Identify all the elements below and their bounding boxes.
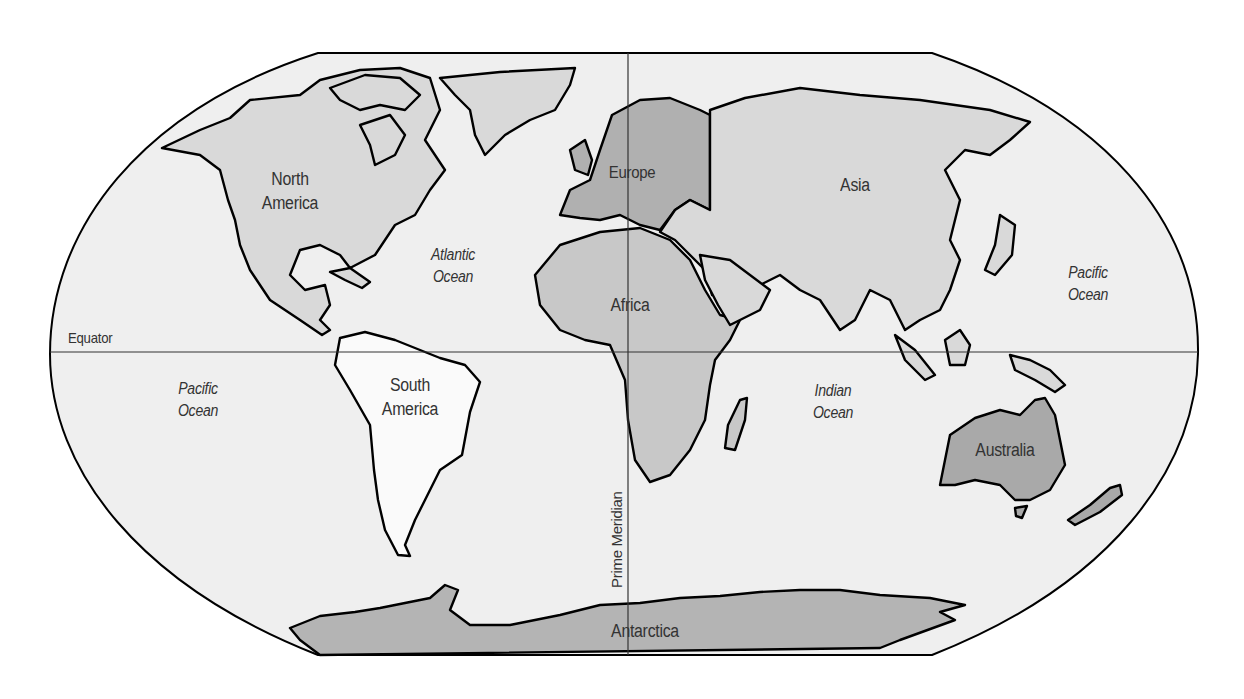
label-australia: Australia: [970, 439, 1040, 461]
label-pacific-ocean-west: Pacific Ocean: [167, 378, 229, 422]
label-north-america: North: [255, 168, 325, 190]
label-europe: Europe: [601, 162, 663, 184]
label-indian-ocean: Indian Ocean: [802, 380, 864, 424]
label-prime-meridian: Prime Meridian: [606, 468, 628, 588]
label-north-america-line2: America: [255, 192, 325, 214]
label-atlantic-ocean: Atlantic Ocean: [422, 244, 484, 288]
label-pacific-ocean-east: Pacific Ocean: [1057, 262, 1119, 306]
label-south-america-line2: America: [375, 398, 445, 420]
label-asia: Asia: [833, 174, 877, 196]
label-antarctica: Antarctica: [605, 620, 684, 642]
label-south-america: South: [375, 374, 445, 396]
label-africa: Africa: [604, 294, 657, 316]
label-equator: Equator: [68, 327, 126, 349]
world-map: [0, 0, 1244, 699]
